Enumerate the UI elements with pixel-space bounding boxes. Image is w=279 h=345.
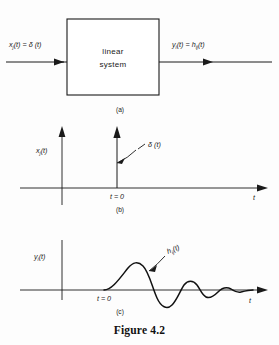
figure-page: xj(t) = δ (t) linear system yi(t) = hij(… bbox=[0, 0, 279, 345]
panel-c: yi(t) hij(t) t = 0 t (c) bbox=[20, 240, 268, 316]
figure-caption: Figure 4.2 bbox=[0, 324, 279, 336]
figure-canvas: xj(t) = δ (t) linear system yi(t) = hij(… bbox=[0, 0, 279, 345]
panel-b-y-label: xj(t) bbox=[35, 146, 48, 156]
output-label: yi(t) = hij(t) bbox=[171, 40, 205, 50]
input-label: xj(t) = δ (t) bbox=[8, 40, 41, 50]
block-label-line1: linear bbox=[102, 47, 123, 56]
panel-b-label: (b) bbox=[116, 206, 124, 214]
panel-c-y-label: yi(t) bbox=[33, 252, 46, 262]
panel-b-x-axis bbox=[20, 185, 268, 192]
impulse-arrow bbox=[113, 126, 120, 188]
block-label-line2: system bbox=[99, 60, 126, 69]
delta-leader-line bbox=[117, 144, 145, 164]
panel-c-x-axis bbox=[20, 287, 268, 294]
delta-annotation: δ (t) bbox=[148, 140, 161, 149]
panel-c-origin-label: t = 0 bbox=[97, 294, 111, 303]
panel-b: xj(t) δ (t) t = 0 t (b) bbox=[20, 126, 268, 214]
panel-a: xj(t) = δ (t) linear system yi(t) = hij(… bbox=[6, 19, 272, 114]
impulse-response-annotation: hij(t) bbox=[165, 243, 181, 257]
input-arrow bbox=[6, 58, 67, 65]
linear-system-block bbox=[67, 19, 159, 95]
panel-b-origin-label: t = 0 bbox=[110, 192, 124, 201]
panel-c-x-label: t bbox=[249, 296, 252, 305]
curve-leader-line bbox=[149, 256, 165, 272]
output-arrow bbox=[159, 58, 272, 65]
panel-b-y-axis bbox=[59, 126, 66, 205]
panel-b-x-label: t bbox=[253, 193, 256, 202]
panel-c-label: (c) bbox=[116, 308, 124, 316]
panel-a-label: (a) bbox=[116, 106, 124, 114]
impulse-response-curve bbox=[104, 263, 253, 308]
